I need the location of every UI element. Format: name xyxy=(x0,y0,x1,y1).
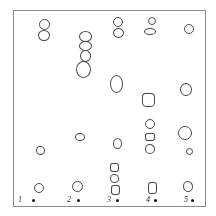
blob-lane-3 xyxy=(113,17,123,27)
blob-lane-4 xyxy=(148,182,157,194)
lane-marker-4 xyxy=(154,199,157,202)
lane-label-2: 2 xyxy=(67,196,71,204)
lane-marker-5 xyxy=(191,199,194,202)
blob-lane-3 xyxy=(111,185,120,195)
blob-lane-2 xyxy=(72,181,83,192)
blob-lane-3 xyxy=(110,75,123,93)
blob-lane-2 xyxy=(79,31,92,42)
blob-lane-4 xyxy=(142,93,155,107)
blob-lane-5 xyxy=(183,181,193,192)
blob-lane-4 xyxy=(145,133,155,141)
figure-canvas: 12345 xyxy=(0,0,216,216)
blob-lane-4 xyxy=(145,144,155,154)
blob-lane-4 xyxy=(144,28,156,35)
lane-label-1: 1 xyxy=(18,196,22,204)
blob-lane-5 xyxy=(178,126,192,140)
blob-lane-3 xyxy=(110,174,119,183)
blob-lane-2 xyxy=(75,133,85,141)
lane-label-5: 5 xyxy=(184,196,188,204)
lane-marker-1 xyxy=(32,199,35,202)
blob-lane-1 xyxy=(38,30,50,41)
lane-label-3: 3 xyxy=(107,196,111,204)
blob-lane-2 xyxy=(76,61,91,78)
blob-lane-4 xyxy=(145,119,155,129)
lane-marker-3 xyxy=(116,199,119,202)
blob-lane-3 xyxy=(110,163,119,172)
blob-lane-1 xyxy=(36,146,45,155)
lane-marker-2 xyxy=(77,199,80,202)
lane-label-4: 4 xyxy=(146,196,150,204)
blob-lane-3 xyxy=(113,138,122,149)
blob-lane-3 xyxy=(113,28,124,38)
blob-lane-5 xyxy=(184,24,194,34)
blob-lane-1 xyxy=(34,183,44,193)
blob-lane-4 xyxy=(148,17,156,25)
blob-lane-5 xyxy=(186,148,193,155)
blob-lane-1 xyxy=(39,19,50,30)
blob-lane-5 xyxy=(180,83,192,96)
